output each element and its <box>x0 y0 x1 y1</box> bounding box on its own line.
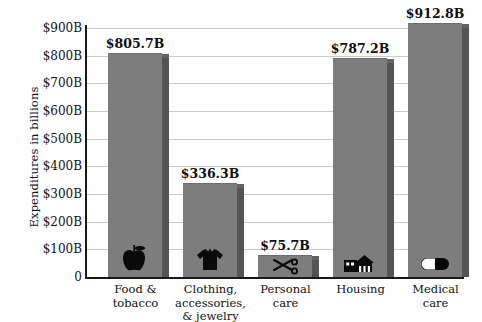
category-label-clothing: Clothing, accessories, & jewelry <box>173 283 248 322</box>
y-tick-200: $200B <box>36 215 82 229</box>
y-tick-0: 0 <box>36 270 82 284</box>
y-tick-600: $600B <box>36 104 82 118</box>
bar-body <box>408 23 462 277</box>
category-label-personal-care: Personal care <box>248 283 323 310</box>
x-axis-line <box>85 277 464 279</box>
bar-body <box>258 255 312 277</box>
bar-shadow <box>162 58 169 277</box>
bar-value-label: $805.7B <box>106 36 164 51</box>
y-tick-800: $800B <box>36 49 82 63</box>
bar-shadow <box>312 260 319 277</box>
bar-housing: $787.2B <box>333 59 387 277</box>
house-icon <box>344 252 376 274</box>
bar-body <box>108 53 162 277</box>
bar-value-label: $912.8B <box>406 6 464 21</box>
bar-value-label: $75.7B <box>260 238 310 253</box>
y-tick-400: $400B <box>36 159 82 173</box>
bar-chart: Expenditures in billions $900B $800B $70… <box>0 0 482 322</box>
y-tick-100: $100B <box>36 242 82 256</box>
bar-shadow <box>387 63 394 277</box>
bar-food-tobacco: $805.7B <box>108 54 162 277</box>
pill-icon <box>418 256 452 272</box>
shirt-icon <box>193 243 227 273</box>
bar-value-label: $336.3B <box>181 166 239 181</box>
bar-value-label: $787.2B <box>331 41 389 56</box>
bar-shadow <box>237 188 244 277</box>
y-tick-300: $300B <box>36 187 82 201</box>
y-tick-700: $700B <box>36 76 82 90</box>
bar-medical-care: $912.8B <box>408 24 462 277</box>
apple-icon <box>118 243 152 273</box>
bar-shadow <box>462 28 469 277</box>
y-tick-500: $500B <box>36 132 82 146</box>
category-label-housing: Housing <box>323 283 398 297</box>
bar-clothing: $336.3B <box>183 184 237 277</box>
y-tick-900: $900B <box>36 21 82 35</box>
bar-body <box>183 183 237 277</box>
y-axis-tick-labels: $900B $800B $700B $600B $500B $400B $300… <box>36 0 82 322</box>
category-label-food-tobacco: Food & tobacco <box>98 283 173 310</box>
y-axis-line <box>85 25 87 279</box>
category-label-medical-care: Medical care <box>398 283 473 310</box>
bar-personal-care: $75.7B <box>258 256 312 277</box>
gridline-900 <box>85 28 462 29</box>
bar-body <box>333 58 387 277</box>
plot-area: $805.7B $336.3B <box>85 28 462 277</box>
scissors-icon <box>270 257 300 277</box>
